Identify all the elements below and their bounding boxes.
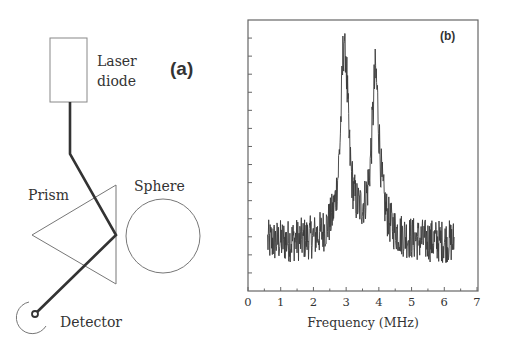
spectrum-line <box>268 34 455 263</box>
y-axis-ticks <box>248 38 252 273</box>
laser-label-line2: diode <box>97 73 136 89</box>
panel-b-label: (b) <box>440 29 455 43</box>
setup-diagram: Laser diode (a) Prism Sphere Detector <box>16 38 200 334</box>
laser-diode-box <box>50 38 87 102</box>
x-axis-tick-labels: 01234567 <box>244 295 480 309</box>
x-tick-label: 5 <box>408 295 415 309</box>
x-axis-label: Frequency (MHz) <box>307 315 419 330</box>
panel-a-label: (a) <box>170 58 193 79</box>
x-tick-label: 2 <box>310 295 317 309</box>
x-tick-label: 7 <box>473 295 480 309</box>
x-tick-label: 1 <box>277 295 284 309</box>
x-tick-label: 4 <box>375 295 382 309</box>
x-tick-label: 3 <box>342 295 349 309</box>
sphere-circle <box>126 199 200 273</box>
spectrum-chart: (b) 01234567 Frequency (MHz) <box>244 20 480 330</box>
sphere-label: Sphere <box>134 178 185 194</box>
laser-beam-path <box>35 102 116 314</box>
detector-point <box>32 311 38 317</box>
figure: Laser diode (a) Prism Sphere Detector (b… <box>0 0 506 347</box>
x-tick-label: 6 <box>441 295 448 309</box>
laser-label: Laser <box>97 53 137 69</box>
detector-label: Detector <box>60 314 122 330</box>
prism-label: Prism <box>28 187 69 203</box>
x-tick-label: 0 <box>244 295 251 309</box>
